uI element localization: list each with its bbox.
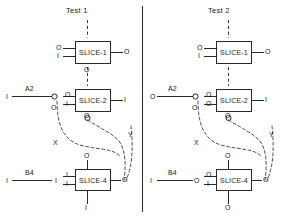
left-net-a2-label: A2 (25, 85, 34, 92)
left-slice1-terminal-right: O (124, 48, 129, 55)
right-net-b4-terminal-left: I (150, 177, 152, 184)
left-net-a2-terminal-right: O (51, 104, 56, 111)
left-slice1-terminal-left-top: O (56, 44, 61, 51)
left-path-y-label: Y (128, 131, 133, 138)
right-a2-junction (193, 94, 198, 99)
block-label: SLICE-4 (220, 177, 248, 184)
left-slice2-terminal-right: I (124, 96, 126, 103)
left-slice1-terminal-left-bottom: I (57, 52, 59, 59)
left-slice4-terminal-bottom: I (85, 204, 87, 211)
right-net-b4-terminal-right: O (194, 177, 199, 184)
left-net-b4-label: B4 (25, 169, 34, 176)
left-net-a2-terminal-left: I (6, 93, 8, 100)
left-a2-junction (52, 94, 57, 99)
left-slice1-terminal-bottom: O (84, 66, 89, 73)
right-net-a2-terminal-right: O (192, 104, 197, 111)
left-slice2-terminal-bottom: O (84, 112, 89, 119)
left-slice2-terminal-left-bottom: I (66, 100, 68, 107)
block-label: SLICE-2 (79, 97, 107, 104)
block-left-slice-4[interactable]: SLICE-4 (75, 169, 111, 191)
panel-title-right: Test 2 (208, 6, 230, 15)
block-label: SLICE-2 (220, 97, 248, 104)
right-slice2-terminal-left-top: O (206, 91, 211, 98)
right-slice4-terminal-right: O (263, 176, 268, 183)
right-net-b4-label: B4 (168, 169, 177, 176)
block-left-slice-2[interactable]: SLICE-2 (75, 89, 111, 112)
block-right-slice-1[interactable]: SLICE-1 (216, 41, 252, 64)
right-path-x-label: X (194, 139, 199, 146)
right-slice1-terminal-right: O (265, 48, 270, 55)
left-slice4-terminal-top: O (84, 152, 89, 159)
right-slice4-terminal-top: O (225, 152, 230, 159)
block-label: SLICE-4 (79, 177, 107, 184)
right-slice4-terminal-bottom: O (225, 204, 230, 211)
schematic-diagram: Test 1 SLICE-1 O I O O SLICE-2 O I I O S… (0, 0, 284, 218)
right-slice4-terminal-left-bottom: I (207, 180, 209, 187)
left-net-b4-terminal-left: I (6, 177, 8, 184)
left-slice2-terminal-left-top: O (65, 91, 70, 98)
block-right-slice-4[interactable]: SLICE-4 (216, 169, 252, 191)
left-slice4-terminal-left-top: I (66, 171, 68, 178)
right-slice4-terminal-left-top: O (206, 171, 211, 178)
right-net-a2-label: A2 (168, 85, 177, 92)
right-net-a2-terminal-left: O (150, 93, 155, 100)
block-right-slice-2[interactable]: SLICE-2 (216, 89, 252, 112)
block-left-slice-1[interactable]: SLICE-1 (75, 41, 111, 64)
left-net-b4-terminal-right: I (55, 177, 57, 184)
right-slice1-terminal-left-top: O (197, 44, 202, 51)
left-path-x-label: X (53, 139, 58, 146)
right-path-y-label: Y (269, 131, 274, 138)
right-slice2-terminal-bottom: O (225, 112, 230, 119)
block-label: SLICE-1 (220, 49, 248, 56)
right-slice1-terminal-left-bottom: I (198, 52, 200, 59)
left-slice4-terminal-right: O (122, 176, 127, 183)
panel-title-left: Test 1 (66, 6, 88, 15)
left-slice4-terminal-left-bottom: I (66, 180, 68, 187)
block-label: SLICE-1 (79, 49, 107, 56)
right-slice2-terminal-right: I (265, 96, 267, 103)
right-slice2-terminal-left-bottom: O (206, 100, 211, 107)
